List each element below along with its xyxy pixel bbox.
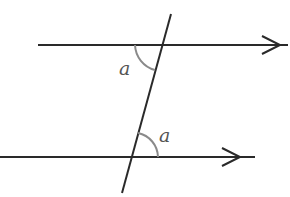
bottom-angle-arc [138,133,158,157]
top-angle-label: a [119,57,130,79]
parallel-lines-diagram: a a [0,0,290,197]
bottom-angle-label: a [159,124,170,146]
transversal-line [122,14,171,193]
top-angle-arc [135,45,155,70]
